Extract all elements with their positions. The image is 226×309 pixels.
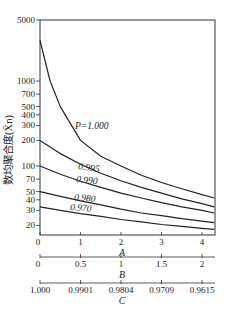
axis-name-A: A [118, 247, 126, 258]
curve-label-p1: P=1.000 [74, 121, 109, 131]
curve-0.980 [40, 192, 214, 223]
y-axis-label: 数均聚合度(X̄n) [2, 115, 15, 185]
x-tick-label: 1.5 [156, 259, 168, 269]
x-tick-label: 2 [200, 259, 205, 269]
x-tick-label: 0.9615 [190, 285, 215, 295]
axis-name-C: C [119, 295, 126, 306]
x-tick-label: 1.000 [30, 285, 51, 295]
y-tick-label: 200 [22, 135, 36, 145]
y-tick-label: 1000 [17, 76, 36, 86]
y-tick-label: 40 [26, 195, 36, 205]
x-tick-label: 1 [78, 237, 83, 247]
y-tick-label: 70 [26, 174, 36, 184]
x-tick-label: 0.9709 [149, 285, 174, 295]
x-tick-label: 3 [159, 237, 164, 247]
x-tick-label: 2 [119, 237, 124, 247]
x-tick-label: 0 [36, 237, 41, 247]
chart-container: 500010007005004003002001007050403020 012… [0, 0, 226, 309]
x-tick-label: 4 [200, 237, 205, 247]
curve-label-0990: 0.990 [76, 174, 99, 186]
x-tick-label: 0.9901 [68, 285, 93, 295]
x-tick-label: 0 [36, 259, 41, 269]
x-tick-label: 0.9804 [109, 285, 134, 295]
x-axes: 01234A00.511.52B1.0000.99010.98040.97090… [30, 232, 215, 306]
y-tick-label: 100 [22, 161, 36, 171]
curve-0.995 [40, 140, 214, 207]
y-tick-label: 5000 [17, 15, 36, 25]
curve-P=1.000 [40, 40, 214, 198]
y-tick-label: 400 [22, 110, 36, 120]
x-tick-label: 1 [119, 259, 124, 269]
y-tick-label: 700 [22, 89, 36, 99]
y-tick-label: 300 [22, 120, 36, 130]
chart-svg: 500010007005004003002001007050403020 012… [0, 0, 226, 309]
curve-0.990 [40, 166, 214, 213]
axis-name-B: B [119, 269, 125, 280]
y-axis-ticks: 500010007005004003002001007050403020 [17, 15, 40, 230]
y-tick-label: 30 [26, 205, 36, 215]
curves [40, 40, 214, 229]
y-tick-label: 20 [26, 220, 36, 230]
curve-label-0995: 0.995 [78, 161, 101, 174]
curve-label-0970: 0.970 [70, 202, 92, 213]
x-tick-label: 0.5 [75, 259, 87, 269]
plot-frame [40, 20, 215, 235]
